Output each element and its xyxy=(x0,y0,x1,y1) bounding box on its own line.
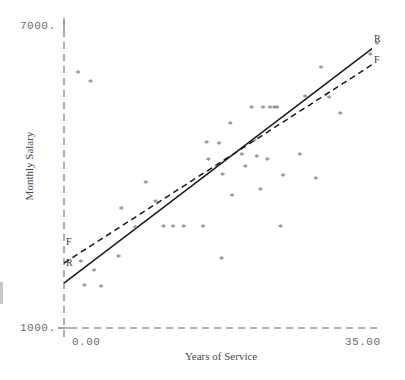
data-point-marker: * xyxy=(82,281,87,292)
data-point-marker: * xyxy=(181,222,186,233)
data-point-marker: * xyxy=(281,171,286,182)
data-point-marker: * xyxy=(258,185,263,196)
data-point-marker: * xyxy=(318,63,323,74)
left-edge-artifact xyxy=(0,282,3,304)
data-point-marker: * xyxy=(338,109,343,120)
regression-lines-layer xyxy=(64,49,372,284)
data-point-marker: * xyxy=(91,266,96,277)
data-point-marker: * xyxy=(76,68,81,79)
data-point-marker: * xyxy=(216,139,221,150)
data-point-marker: * xyxy=(98,282,103,293)
data-point-marker: * xyxy=(88,77,93,88)
series-label-R-end: R xyxy=(374,33,381,44)
data-point-marker: * xyxy=(153,197,158,208)
data-point-marker: * xyxy=(274,103,279,114)
y-axis-tick-max: 7000. xyxy=(20,20,56,32)
x-axis-title: Years of Service xyxy=(185,350,257,362)
plot-canvas: ****************************************… xyxy=(0,0,405,380)
data-point-marker: * xyxy=(368,50,373,61)
data-point-marker: * xyxy=(230,191,235,202)
data-point-marker: * xyxy=(171,222,176,233)
data-point-marker: * xyxy=(143,178,148,189)
data-point-marker: * xyxy=(326,93,331,104)
data-point-marker: * xyxy=(254,152,259,163)
data-point-marker: * xyxy=(297,150,302,161)
data-point-marker: * xyxy=(278,222,283,233)
data-point-marker: * xyxy=(249,103,254,114)
data-point-marker: * xyxy=(252,136,257,147)
series-label-F-start: F xyxy=(66,236,72,247)
data-point-marker: * xyxy=(303,92,308,103)
data-point-marker: * xyxy=(161,222,166,233)
data-point-marker: * xyxy=(228,119,233,130)
scatter-plot-figure: ****************************************… xyxy=(0,0,405,380)
data-point-marker: * xyxy=(133,223,138,234)
data-point-marker: * xyxy=(239,150,244,161)
series-label-F-end: F xyxy=(374,54,380,65)
x-axis-tick-max: 35.00 xyxy=(345,336,381,348)
data-point-marker: * xyxy=(119,204,124,215)
data-point-marker: * xyxy=(206,155,211,166)
data-point-marker: * xyxy=(116,252,121,263)
data-point-marker: * xyxy=(78,257,83,268)
data-point-marker: * xyxy=(265,155,270,166)
series-label-R-start: R xyxy=(66,257,73,268)
data-point-marker: * xyxy=(204,138,209,149)
data-point-marker: * xyxy=(260,103,265,114)
data-point-marker: * xyxy=(220,170,225,181)
data-point-marker: * xyxy=(313,174,318,185)
y-axis-title: Monthly Salary xyxy=(23,121,35,211)
data-point-marker: * xyxy=(201,222,206,233)
data-point-marker: * xyxy=(243,162,248,173)
y-axis-tick-min: 1000. xyxy=(20,322,56,334)
axes-layer xyxy=(58,18,378,338)
x-axis-tick-min: 0.00 xyxy=(72,336,100,348)
data-point-marker: * xyxy=(219,254,224,265)
